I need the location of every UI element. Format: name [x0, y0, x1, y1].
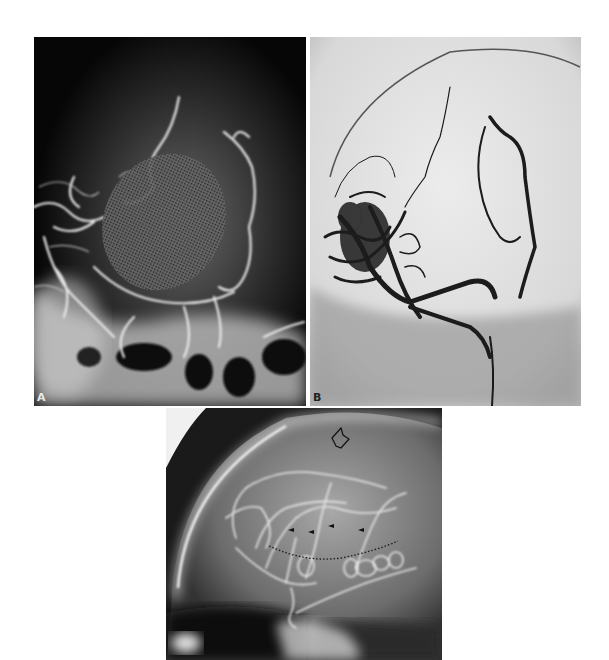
angiogram-a-image [34, 37, 306, 406]
panel-label-a: A [37, 392, 46, 403]
panel-label-b: B [313, 392, 321, 403]
angiogram-c-image [166, 408, 442, 660]
angiogram-panel-b: B [310, 37, 581, 406]
angiogram-panel-c [166, 408, 442, 660]
angiogram-b-image [310, 37, 581, 406]
angiogram-panel-a: A [34, 37, 306, 406]
